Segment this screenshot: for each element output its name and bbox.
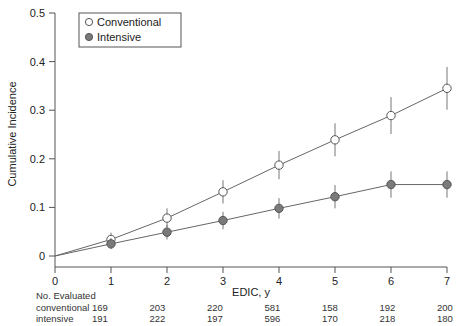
x-tick-label-7: 7 (444, 275, 450, 287)
risk-value-conventional-year-1: 169 (92, 302, 108, 313)
data-point-intensive-year-4 (275, 204, 283, 212)
legend-label-intensive: Intensive (97, 31, 141, 43)
data-point-intensive-year-7 (443, 180, 451, 188)
risk-value-intensive-year-7: 180 (437, 313, 453, 324)
data-point-intensive-year-3 (219, 216, 227, 224)
legend-marker-conventional-icon (85, 18, 92, 25)
risk-table-values-layer: 1692032205811581922001912221975961702181… (92, 302, 453, 324)
series-conventional (55, 67, 451, 256)
data-point-conventional-year-2 (163, 214, 171, 222)
y-tick-label-2: 0.2 (30, 153, 45, 165)
legend-marker-intensive-icon (85, 33, 92, 40)
data-point-conventional-year-3 (219, 188, 227, 196)
risk-value-intensive-year-4: 596 (265, 313, 281, 324)
risk-value-intensive-year-5: 170 (322, 313, 338, 324)
y-tick-label-1: 0.1 (30, 201, 45, 213)
x-tick-label-2: 2 (164, 275, 170, 287)
data-point-conventional-year-5 (331, 136, 339, 144)
y-axis-tick-labels: 0 0.1 0.2 0.3 0.4 0.5 (30, 7, 45, 262)
risk-value-conventional-year-2: 203 (150, 302, 166, 313)
y-axis-ticks (49, 13, 55, 256)
risk-value-intensive-year-2: 222 (150, 313, 166, 324)
risk-value-intensive-year-1: 191 (92, 313, 108, 324)
data-point-intensive-year-2 (163, 228, 171, 236)
data-point-conventional-year-7 (443, 84, 451, 92)
x-tick-label-0: 0 (52, 275, 58, 287)
y-tick-label-0: 0 (39, 250, 45, 262)
chart-canvas: 0 0.1 0.2 0.3 0.4 0.5 Cumulative Inciden… (0, 0, 464, 326)
data-series-layer (55, 67, 451, 256)
x-tick-label-4: 4 (276, 275, 282, 287)
y-axis-title: Cumulative Incidence (6, 81, 18, 186)
chart-legend: Conventional Intensive (79, 13, 181, 47)
legend-label-conventional: Conventional (97, 16, 161, 28)
x-tick-label-5: 5 (332, 275, 338, 287)
risk-value-conventional-year-4: 581 (265, 302, 281, 313)
risk-value-conventional-year-3: 220 (207, 302, 223, 313)
x-tick-label-6: 6 (388, 275, 394, 287)
series-intensive (55, 171, 451, 256)
x-tick-label-3: 3 (220, 275, 226, 287)
risk-table-row-label-conventional: conventional (36, 302, 89, 313)
y-tick-label-4: 0.4 (30, 56, 45, 68)
risk-value-conventional-year-6: 192 (380, 302, 396, 313)
data-point-conventional-year-6 (387, 111, 395, 119)
risk-table-title: No. Evaluated (36, 290, 96, 301)
y-tick-label-5: 0.5 (30, 7, 45, 19)
x-tick-label-1: 1 (108, 275, 114, 287)
data-point-intensive-year-1 (107, 240, 115, 248)
risk-value-intensive-year-3: 197 (207, 313, 223, 324)
x-axis-title: EDIC, y (232, 286, 270, 298)
risk-table-row-label-intensive: intensive (36, 313, 74, 324)
cumulative-incidence-figure: 0 0.1 0.2 0.3 0.4 0.5 Cumulative Inciden… (0, 0, 464, 326)
risk-value-conventional-year-5: 158 (322, 302, 338, 313)
risk-value-intensive-year-6: 218 (380, 313, 396, 324)
y-tick-label-3: 0.3 (30, 104, 45, 116)
data-point-intensive-year-6 (387, 180, 395, 188)
risk-value-conventional-year-7: 200 (437, 302, 453, 313)
data-point-intensive-year-5 (331, 193, 339, 201)
x-axis-ticks (55, 267, 447, 273)
data-point-conventional-year-4 (275, 161, 283, 169)
